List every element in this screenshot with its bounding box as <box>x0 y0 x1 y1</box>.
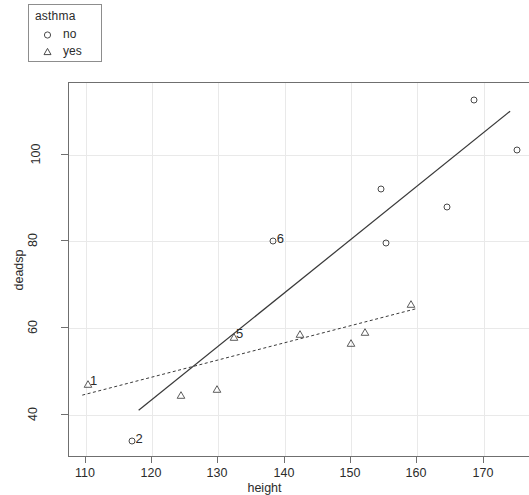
x-tick-label: 110 <box>75 466 95 480</box>
circle-marker-icon <box>270 238 277 245</box>
data-point-yes <box>346 339 355 348</box>
point-label: 5 <box>236 325 243 340</box>
y-tick-label: 60 <box>26 320 40 334</box>
data-point-yes: 5 <box>229 332 238 341</box>
point-label: 1 <box>90 373 97 388</box>
data-point-no: 6 <box>270 238 277 245</box>
point-label: 2 <box>136 430 143 445</box>
y-tick-label: 100 <box>29 144 43 165</box>
legend-title: asthma <box>35 9 76 23</box>
regression-lines <box>69 83 529 457</box>
y-tick-mark <box>61 240 68 241</box>
y-tick-mark <box>61 154 68 155</box>
x-tick-label: 120 <box>141 466 162 480</box>
plot-panel: 2615 <box>68 82 529 457</box>
triangle-marker-icon <box>177 391 186 400</box>
triangle-marker-icon <box>41 45 54 58</box>
legend-label-no: no <box>63 27 76 41</box>
triangle-marker-icon <box>296 330 305 339</box>
y-tick-mark <box>61 327 68 328</box>
x-tick-label: 130 <box>207 466 228 480</box>
x-tick-label: 150 <box>340 466 361 480</box>
x-tick-mark <box>151 457 152 463</box>
y-tick-mark <box>61 414 68 415</box>
x-tick-label: 140 <box>274 466 295 480</box>
x-tick-mark <box>217 457 218 463</box>
data-point-no: 2 <box>129 437 136 444</box>
triangle-marker-icon <box>346 339 355 348</box>
circle-marker-icon <box>129 437 136 444</box>
x-tick-mark <box>85 457 86 463</box>
data-point-no <box>383 240 390 247</box>
y-axis-title: deadsp <box>12 249 26 290</box>
point-label: 6 <box>277 231 284 246</box>
y-tick-label: 80 <box>26 233 40 247</box>
circle-marker-icon <box>377 186 384 193</box>
circle-marker-icon <box>513 147 520 154</box>
triangle-marker-icon <box>360 328 369 337</box>
x-tick-label: 160 <box>406 466 427 480</box>
circle-marker-icon <box>41 28 54 41</box>
circle-marker-icon <box>470 97 477 104</box>
data-point-no <box>470 97 477 104</box>
y-tick-label: 40 <box>26 407 40 421</box>
triangle-marker-icon <box>406 300 415 309</box>
circle-marker-icon <box>444 203 451 210</box>
data-point-yes <box>296 330 305 339</box>
x-tick-label: 170 <box>473 466 494 480</box>
legend-label-yes: yes <box>63 44 82 58</box>
x-tick-mark <box>483 457 484 463</box>
triangle-marker-icon <box>212 384 221 393</box>
x-tick-mark <box>284 457 285 463</box>
data-point-yes <box>177 391 186 400</box>
data-point-no <box>513 147 520 154</box>
circle-marker-icon <box>383 240 390 247</box>
regression-line-no <box>139 111 510 410</box>
data-point-no <box>444 203 451 210</box>
x-tick-mark <box>350 457 351 463</box>
data-point-yes <box>360 328 369 337</box>
legend-item-yes: yes <box>35 43 101 60</box>
legend: asthma no yes <box>28 4 102 62</box>
x-axis-title: height <box>0 481 529 495</box>
data-point-yes: 1 <box>83 380 92 389</box>
x-tick-mark <box>416 457 417 463</box>
data-point-yes <box>406 300 415 309</box>
data-point-no <box>377 186 384 193</box>
legend-item-no: no <box>35 26 101 43</box>
data-point-yes <box>212 384 221 393</box>
